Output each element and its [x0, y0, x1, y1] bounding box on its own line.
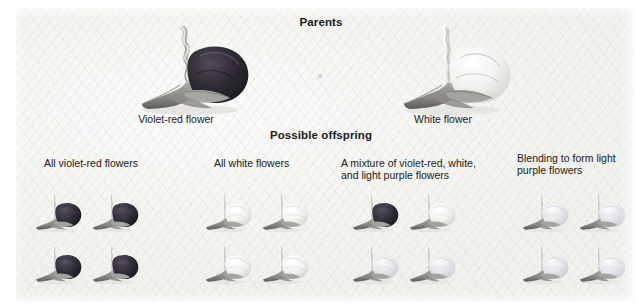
offspring-flower-group-all-violet-red-3 [30, 238, 88, 292]
violet-red-flower-illustration [128, 22, 264, 118]
cross-symbol: × [305, 70, 335, 82]
offspring-flower-group-mixture-2 [404, 186, 462, 240]
offspring-flower-group-all-white-4 [257, 238, 315, 292]
offspring-flower-illustration [574, 238, 632, 292]
offspring-flower-group-blending-3 [517, 238, 575, 292]
offspring-flower-group-all-violet-red-1 [30, 186, 88, 240]
offspring-group-label-3: A mixture of violet-red, white, and ligh… [341, 157, 521, 182]
white-flower-illustration [390, 22, 526, 118]
offspring-flower-illustration [200, 238, 258, 292]
offspring-flower-group-all-white-2 [257, 186, 315, 240]
offspring-group-label-1: All violet-red flowers [44, 157, 214, 169]
offspring-flower-illustration [347, 238, 405, 292]
offspring-flower-group-all-white-1 [200, 186, 258, 240]
offspring-flower-illustration [257, 238, 315, 292]
parent-flower-white [390, 22, 526, 118]
offspring-flower-illustration [257, 186, 315, 240]
offspring-flower-illustration [517, 238, 575, 292]
offspring-flower-group-mixture-3 [347, 238, 405, 292]
offspring-flower-group-blending-4 [574, 238, 632, 292]
offspring-flower-illustration [200, 186, 258, 240]
offspring-flower-illustration [574, 186, 632, 240]
parents-heading: Parents [0, 16, 642, 28]
offspring-flower-group-blending-2 [574, 186, 632, 240]
genetics-inheritance-figure: Parents [0, 0, 642, 308]
offspring-flower-illustration [87, 186, 145, 240]
offspring-flower-illustration [30, 238, 88, 292]
offspring-flower-group-all-violet-red-2 [87, 186, 145, 240]
offspring-heading: Possible offspring [0, 129, 642, 141]
offspring-flower-group-mixture-1 [347, 186, 405, 240]
offspring-flower-illustration [404, 186, 462, 240]
offspring-flower-illustration [30, 186, 88, 240]
offspring-group-label-4: Blending to form light purple flowers [517, 152, 642, 177]
offspring-flower-illustration [517, 186, 575, 240]
offspring-flower-group-blending-1 [517, 186, 575, 240]
parent-label-white: White flower [355, 113, 531, 125]
offspring-flower-group-mixture-4 [404, 238, 462, 292]
parent-flower-violet-red [128, 22, 264, 118]
parent-label-violet-red: Violet-red flower [88, 113, 264, 125]
offspring-flower-illustration [347, 186, 405, 240]
offspring-flower-illustration [87, 238, 145, 292]
offspring-flower-group-all-violet-red-4 [87, 238, 145, 292]
offspring-flower-illustration [404, 238, 462, 292]
offspring-flower-group-all-white-3 [200, 238, 258, 292]
